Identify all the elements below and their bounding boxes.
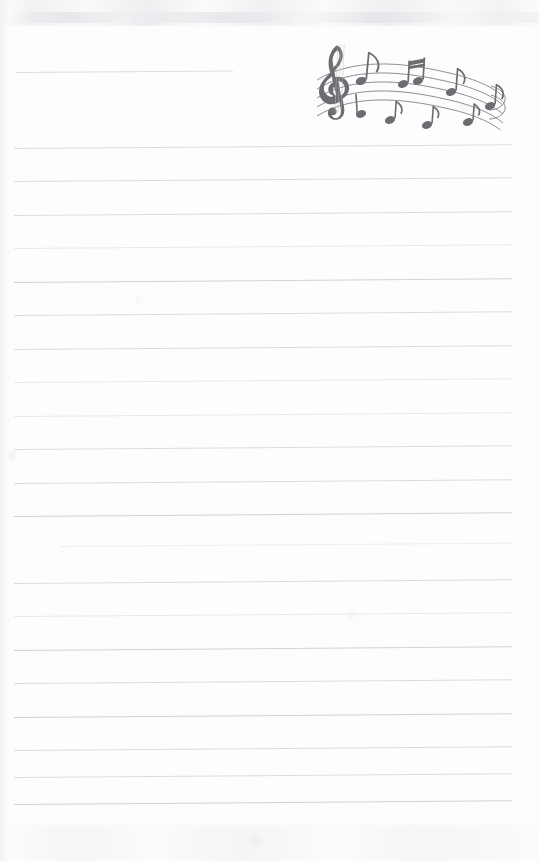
ruled-line[interactable] (14, 800, 512, 805)
ruled-line[interactable] (14, 746, 512, 751)
music-staff-illustration (305, 28, 520, 130)
ruled-line[interactable] (14, 378, 512, 383)
scan-top-smudge-secondary (8, 12, 539, 23)
scan-blotch (8, 452, 16, 460)
scan-bottom-smudge (0, 825, 539, 861)
scan-blotch (252, 836, 261, 845)
ruled-line[interactable] (14, 646, 512, 651)
ruled-line[interactable] (60, 543, 512, 547)
ruled-line[interactable] (14, 713, 512, 718)
ruled-line[interactable] (14, 244, 512, 249)
ruled-line[interactable] (14, 211, 512, 216)
ruled-line[interactable] (14, 177, 512, 182)
ruled-line[interactable] (14, 412, 512, 417)
ruled-line[interactable] (14, 311, 512, 316)
ruled-line[interactable] (14, 278, 512, 283)
ruled-line[interactable] (14, 612, 512, 617)
ruled-line[interactable] (14, 445, 512, 450)
ruled-line[interactable] (14, 144, 512, 149)
ruled-line[interactable] (14, 579, 512, 584)
scan-blotch (136, 298, 141, 303)
scan-blotch (348, 612, 354, 618)
ruled-line[interactable] (14, 512, 512, 517)
scan-top-smudge (0, 0, 539, 26)
ruled-line[interactable] (14, 773, 512, 778)
ruled-line[interactable] (14, 679, 512, 684)
scan-left-edge-shadow (0, 0, 9, 861)
title-write-on-line[interactable] (16, 70, 233, 73)
ruled-line[interactable] (14, 345, 512, 350)
ruled-line[interactable] (14, 479, 512, 484)
notepaper-page (0, 0, 539, 861)
